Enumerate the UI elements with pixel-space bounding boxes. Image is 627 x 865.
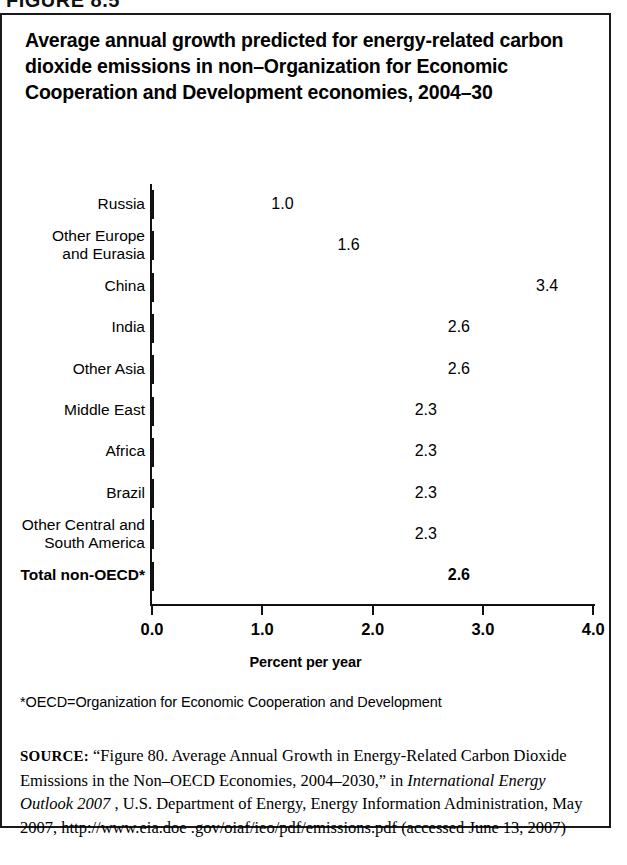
footnote-oecd-definition: *OECD=Organization for Economic Cooperat… xyxy=(20,694,442,710)
source-note: SOURCE: “Figure 80. Average Annual Growt… xyxy=(20,744,600,839)
source-kicker: SOURCE: xyxy=(20,748,89,764)
figure-number: FIGURE 8.5 xyxy=(6,0,120,12)
x-axis-title: Percent per year xyxy=(0,654,611,670)
chart-title: Average annual growth predicted for ener… xyxy=(25,27,585,105)
